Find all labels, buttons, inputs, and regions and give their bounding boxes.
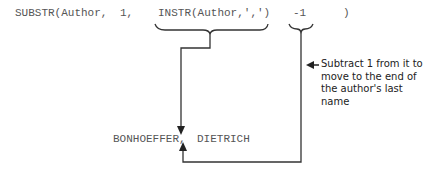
result-first-name: DIETRICH: [197, 133, 250, 145]
instr-brace: [155, 24, 268, 34]
minus-one-brace: [289, 24, 313, 32]
annotation-line-1: Subtract 1 from it to: [321, 58, 432, 71]
instr-connector: [181, 34, 210, 127]
annotation-line-3: the author's last name: [321, 83, 432, 108]
substr-diagram: SUBSTR(Author, 1, INSTR(Author,',') -1 )…: [0, 0, 432, 171]
annotation-line-2: move to the end of: [321, 71, 432, 84]
subtract-annotation: Subtract 1 from it to move to the end of…: [321, 58, 432, 108]
result-last-name: BONHOEFFER,: [113, 133, 186, 145]
left-arrow-icon: [306, 61, 314, 69]
